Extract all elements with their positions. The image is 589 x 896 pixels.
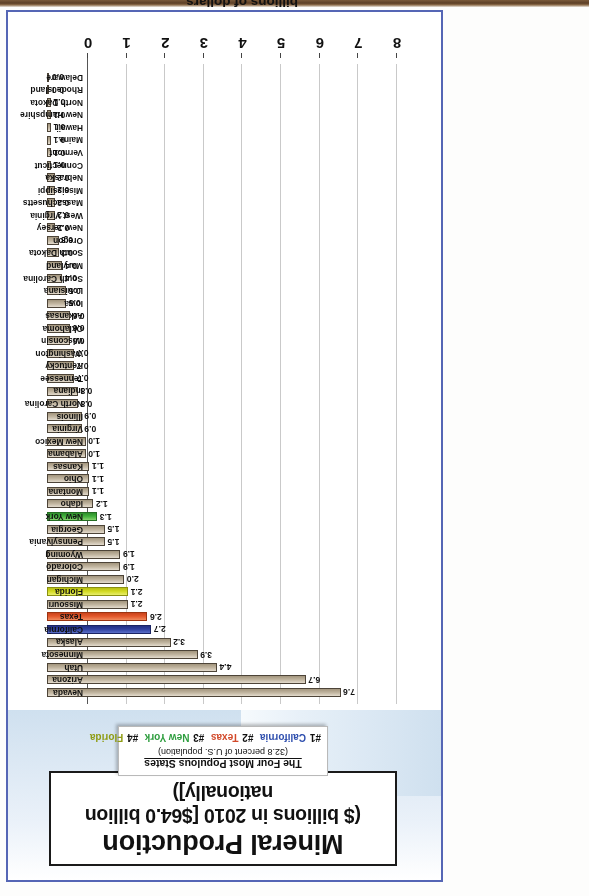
title-subtitle: ($ billions in 2010 [$64.0 billion natio… bbox=[57, 781, 389, 827]
tick-mark-7 bbox=[357, 53, 358, 58]
category-label: Washington bbox=[35, 349, 83, 357]
category-label: Louisiana bbox=[44, 287, 83, 295]
bar-maine bbox=[47, 136, 51, 145]
gridline-2 bbox=[164, 64, 165, 704]
bar-value-label: 4.4 bbox=[219, 662, 231, 672]
category-label: California bbox=[44, 626, 83, 634]
tick-label-0: 0 bbox=[84, 35, 92, 52]
category-label: Virginia bbox=[52, 425, 83, 433]
category-label: Arkansas bbox=[45, 312, 83, 320]
gridline-6 bbox=[319, 64, 320, 704]
category-label: Ohio bbox=[64, 475, 83, 483]
category-label: Delaware bbox=[46, 73, 83, 81]
bar-value-label: 0.9 bbox=[84, 411, 96, 421]
gridline-5 bbox=[280, 64, 281, 704]
bar-hawaii bbox=[47, 123, 51, 132]
legend-rank-3: #3 bbox=[190, 732, 204, 743]
tick-mark-8 bbox=[396, 53, 397, 58]
legend-title: The Four Most Populous States bbox=[125, 758, 321, 770]
bar-value-label: 2.7 bbox=[154, 624, 166, 634]
bar-value-label: 0.9 bbox=[84, 424, 96, 434]
legend-state-2: Texas bbox=[211, 732, 239, 743]
category-label: Hawaii bbox=[56, 124, 83, 132]
tick-label-3: 3 bbox=[200, 35, 208, 52]
bar-row: 7.6 bbox=[47, 686, 355, 698]
tick-mark-5 bbox=[280, 53, 281, 58]
tick-label-6: 6 bbox=[316, 35, 324, 52]
legend-state-3: New York bbox=[145, 732, 190, 743]
category-label: Idaho bbox=[61, 500, 83, 508]
page-title: Mineral Production ($ billions in 2010 [… bbox=[49, 771, 397, 866]
source-caption: Value of domestic nonfuel mineral produc… bbox=[455, 0, 589, 896]
category-label: Oklahoma bbox=[43, 324, 84, 332]
category-label: New Hampshire bbox=[20, 111, 83, 119]
legend-box: The Four Most Populous States (32.8 perc… bbox=[118, 726, 328, 776]
category-label: Nevada bbox=[53, 688, 83, 696]
category-label: North Dakota bbox=[30, 98, 83, 106]
slide-frame: Mineral Production ($ billions in 2010 [… bbox=[6, 10, 443, 882]
bar-value-label: 1.5 bbox=[107, 524, 119, 534]
bar-value-label: 1.2 bbox=[96, 499, 108, 509]
category-label: New Mexico bbox=[35, 437, 83, 445]
tick-mark-1 bbox=[126, 53, 127, 58]
bar-value-label: 7.6 bbox=[343, 687, 355, 697]
gridline-7 bbox=[357, 64, 358, 704]
tick-mark-4 bbox=[242, 53, 243, 58]
category-label: Illinois bbox=[56, 412, 83, 420]
tick-mark-0 bbox=[87, 53, 88, 58]
category-label: Iowa bbox=[64, 299, 83, 307]
category-label: Oregon bbox=[53, 237, 83, 245]
bar-value-label: 3.9 bbox=[200, 650, 212, 660]
legend-state-1: California bbox=[260, 732, 306, 743]
bar-value-label: 1.0 bbox=[88, 449, 100, 459]
tick-mark-2 bbox=[164, 53, 165, 58]
bar-value-label: 2.1 bbox=[131, 599, 143, 609]
bar-chart: 7.6Nevada6.7Arizona4.4Utah3.9Minnesota3.… bbox=[47, 32, 397, 704]
chart-axis-ticks: 012345678 bbox=[87, 16, 397, 58]
category-label: Maine bbox=[59, 136, 83, 144]
category-label: Massachusetts bbox=[23, 199, 83, 207]
category-label: Alabama bbox=[48, 450, 83, 458]
category-label: Florida bbox=[55, 588, 83, 596]
bar-row: 6.7 bbox=[47, 674, 320, 686]
category-label: Tennessee bbox=[40, 375, 83, 383]
category-label: Connecticut bbox=[35, 161, 83, 169]
tick-label-1: 1 bbox=[122, 35, 130, 52]
bar-value-label: 2.0 bbox=[127, 574, 139, 584]
legend-rank-4: #4 bbox=[124, 732, 138, 743]
category-label: Wyoming bbox=[45, 550, 83, 558]
tick-label-4: 4 bbox=[238, 35, 246, 52]
category-label: Indiana bbox=[54, 387, 83, 395]
bar-value-label: 1.1 bbox=[92, 461, 104, 471]
title-main: Mineral Production bbox=[57, 829, 389, 857]
category-label: New Jersey bbox=[37, 224, 83, 232]
tick-label-2: 2 bbox=[161, 35, 169, 52]
category-label: North Carolina bbox=[25, 400, 83, 408]
category-label: Alaska bbox=[56, 638, 83, 646]
category-label: Michigan bbox=[47, 575, 83, 583]
tick-mark-3 bbox=[203, 53, 204, 58]
category-label: Maryland bbox=[46, 262, 83, 270]
bar-value-label: 6.7 bbox=[308, 675, 320, 685]
bar-value-label: 1.1 bbox=[92, 474, 104, 484]
category-label: Utah bbox=[64, 663, 83, 671]
category-label: Vermont bbox=[49, 149, 83, 157]
legend-subtitle: (32.8 percent of U.S. population) bbox=[125, 746, 321, 757]
category-label: Arizona bbox=[52, 676, 83, 684]
gridline-4 bbox=[242, 64, 243, 704]
bar-arizona bbox=[47, 675, 306, 684]
legend-state-4: Florida bbox=[90, 732, 123, 743]
bar-value-label: 2.1 bbox=[131, 587, 143, 597]
category-label: Georgia bbox=[51, 525, 83, 533]
bar-nevada bbox=[47, 688, 341, 697]
legend-rank-2: #2 bbox=[240, 732, 254, 743]
bar-value-label: 1.1 bbox=[92, 486, 104, 496]
category-label: Minnesota bbox=[42, 651, 83, 659]
gridline-3 bbox=[203, 64, 204, 704]
category-label: Colorado bbox=[46, 563, 83, 571]
legend-entries: #1 California #2 Texas #3 New York #4 Fl… bbox=[125, 732, 321, 743]
category-label: Mississippi bbox=[38, 186, 83, 194]
bar-value-label: 2.6 bbox=[150, 612, 162, 622]
category-label: South Dakota bbox=[29, 249, 83, 257]
category-label: Kentucky bbox=[45, 362, 83, 370]
